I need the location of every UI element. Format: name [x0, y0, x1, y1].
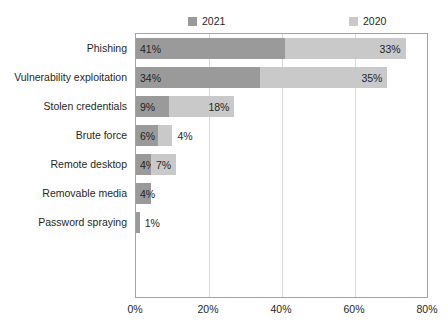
chart-legend: 2021 2020: [0, 13, 448, 31]
bar-label-brute-force-2021: 6%: [140, 130, 155, 142]
bar-segment-stolen-credentials-2020: 18%: [169, 96, 235, 117]
y-axis-label-brute-force: Brute force: [76, 129, 127, 141]
bar-label-password-spraying-2021: 1%: [145, 217, 160, 229]
legend-swatch-2021: [188, 17, 197, 26]
y-axis-label-phishing: Phishing: [87, 42, 127, 54]
bar-segment-removable-media-2021: 4%: [136, 183, 151, 204]
x-axis-labels: 0% 20% 40% 60% 80%: [135, 300, 428, 320]
bar-segment-stolen-credentials-2021: 9%: [136, 96, 169, 117]
x-axis-tick-20: 20%: [197, 303, 218, 315]
bar-segment-remote-desktop-2021: 4%: [136, 154, 151, 175]
bar-segment-vulnerability-exploitation-2021: 34%: [136, 67, 260, 88]
legend-swatch-2020: [349, 17, 358, 26]
bar-label-phishing-2020: 33%: [380, 43, 401, 55]
x-axis-tick-80: 80%: [416, 303, 437, 315]
y-axis-label-password-spraying: Password spraying: [38, 216, 127, 228]
bar-segment-phishing-2021: 41%: [136, 38, 285, 59]
bar-segment-brute-force-2020: 4%: [158, 125, 173, 146]
bar-segment-password-spraying-2021: 1%: [136, 212, 140, 233]
legend-item-2021: 2021: [188, 14, 225, 28]
legend-label-2020: 2020: [363, 15, 386, 27]
bars-layer: 41% 33% 34% 35% 9% 18%: [136, 34, 427, 297]
y-axis-label-removable-media: Removable media: [42, 187, 127, 199]
bar-label-remote-desktop-2020: 7%: [156, 159, 171, 171]
bar-label-vulnerability-exploitation-2020: 35%: [361, 72, 382, 84]
bar-label-stolen-credentials-2020: 18%: [208, 101, 229, 113]
y-axis-labels: Phishing Vulnerability exploitation Stol…: [0, 33, 131, 298]
bar-label-phishing-2021: 41%: [140, 43, 161, 55]
stacked-bar-chart: 2021 2020 Phishing Vulnerability exploit…: [0, 0, 448, 333]
x-axis-tick-60: 60%: [343, 303, 364, 315]
y-axis-label-remote-desktop: Remote desktop: [51, 158, 127, 170]
bar-segment-brute-force-2021: 6%: [136, 125, 158, 146]
bar-label-brute-force-2020: 4%: [177, 130, 192, 142]
legend-label-2021: 2021: [202, 15, 225, 27]
bar-segment-remote-desktop-2020: 7%: [151, 154, 177, 175]
y-axis-label-vulnerability-exploitation: Vulnerability exploitation: [14, 71, 127, 83]
x-axis-tick-40: 40%: [270, 303, 291, 315]
bar-segment-phishing-2020: 33%: [285, 38, 405, 59]
legend-item-2020: 2020: [349, 14, 386, 28]
bar-label-stolen-credentials-2021: 9%: [140, 101, 155, 113]
bar-label-removable-media-2021: 4%: [140, 188, 155, 200]
bar-label-vulnerability-exploitation-2021: 34%: [140, 72, 161, 84]
y-axis-label-stolen-credentials: Stolen credentials: [44, 100, 127, 112]
bar-segment-vulnerability-exploitation-2020: 35%: [260, 67, 388, 88]
x-axis-tick-0: 0%: [127, 303, 142, 315]
